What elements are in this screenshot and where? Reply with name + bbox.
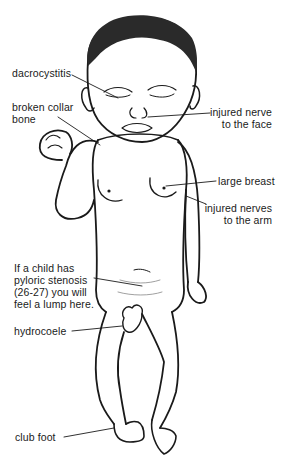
label-line: (26-27) you will: [14, 286, 94, 298]
label-line: injured nerves: [205, 202, 272, 214]
label-hydrocoele: hydrocoele: [14, 325, 66, 337]
label-injured-nerve-face: injured nerve to the face: [210, 106, 272, 130]
label-line: bone: [12, 113, 73, 125]
label-line: pyloric stenosis: [14, 274, 94, 286]
right-arm: [178, 142, 206, 303]
legs: [96, 312, 178, 428]
left-arm: [40, 131, 98, 219]
label-line: feel a lump here.: [14, 298, 94, 310]
label-pyloric-stenosis: If a child has pyloric stenosis (26-27) …: [14, 262, 94, 310]
genitals: [123, 305, 143, 332]
label-line: If a child has: [14, 262, 94, 274]
label-line: to the face: [210, 118, 272, 130]
label-club-foot: club foot: [15, 431, 56, 443]
label-dacrocystitis: dacrocystitis: [12, 67, 71, 79]
label-line: injured nerve: [210, 106, 272, 118]
head: [82, 15, 200, 142]
label-broken-collar-bone: broken collar bone: [12, 101, 73, 125]
leader-lines: [58, 75, 216, 437]
label-line: broken collar: [12, 101, 73, 113]
label-large-breast: large breast: [218, 175, 275, 187]
label-line: to the arm: [205, 214, 272, 226]
feet: [114, 420, 176, 454]
label-injured-nerves-arm: injured nerves to the arm: [205, 202, 272, 226]
